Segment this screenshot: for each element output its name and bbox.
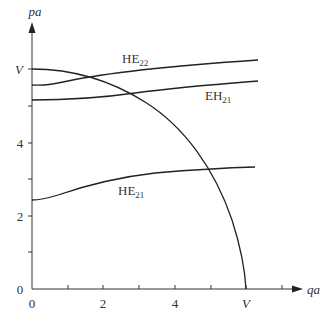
label-HE22: HE22: [122, 51, 148, 68]
x-tick-label-0: 0: [29, 296, 36, 311]
y-tick-label-2: 2: [17, 209, 24, 224]
label-EH21: EH21: [205, 88, 231, 105]
dispersion-chart: 0 2 4 V 0 2 4 V pa qa HE22 EH21 HE21: [0, 0, 325, 320]
y-axis-title: pa: [28, 4, 43, 19]
y-ticks: [28, 69, 32, 252]
y-tick-label-V: V: [15, 62, 25, 77]
x-axis-title: qa: [307, 282, 321, 297]
y-tick-label-0: 0: [17, 282, 24, 297]
label-HE21: HE21: [118, 183, 144, 200]
x-axis-arrow-icon: [292, 286, 303, 293]
x-tick-label-2: 2: [100, 296, 107, 311]
x-tick-label-V: V: [242, 296, 252, 311]
x-tick-label-4: 4: [172, 296, 179, 311]
x-ticks: [68, 285, 282, 289]
y-tick-label-4: 4: [17, 136, 24, 151]
y-axis-arrow-icon: [29, 22, 36, 33]
